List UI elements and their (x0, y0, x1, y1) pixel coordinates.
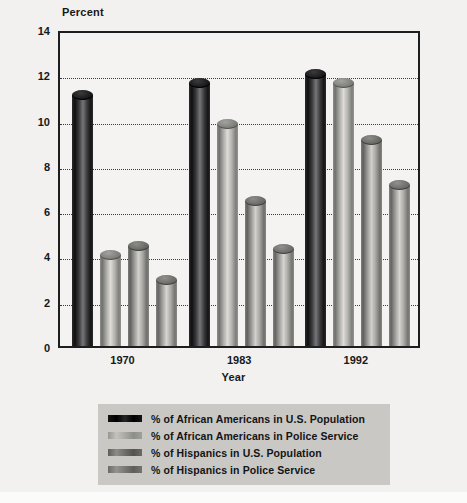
bar-body (72, 95, 93, 346)
x-tick-label: 1970 (110, 354, 134, 366)
legend-swatch (108, 449, 142, 456)
bar-body (333, 83, 354, 346)
bar (128, 241, 149, 346)
bar-body (156, 280, 177, 346)
bar-body (189, 83, 210, 346)
legend-label: % of African Americans in Police Service (151, 430, 358, 442)
bar (273, 244, 294, 346)
legend-swatch (108, 432, 142, 439)
legend-item: % of Hispanics in Police Service (98, 461, 390, 478)
bar-body (305, 74, 326, 346)
chart-figure: Percent 02468101214 197019831992 Year % … (0, 0, 467, 503)
bar (333, 78, 354, 346)
y-tick-label: 14 (8, 25, 50, 37)
y-tick-label: 2 (8, 297, 50, 309)
legend-swatch (108, 466, 142, 473)
bar-body (100, 255, 121, 346)
bar-body (128, 246, 149, 346)
x-axis-title: Year (0, 371, 467, 383)
x-tick-label: 1983 (227, 354, 251, 366)
gridline (60, 124, 418, 125)
plot-area (58, 31, 420, 348)
bar-cap (217, 119, 238, 129)
bar (189, 78, 210, 346)
legend-item: % of Hispanics in U.S. Population (98, 444, 390, 461)
y-tick-label: 12 (8, 70, 50, 82)
bar-cap (245, 196, 266, 206)
bar (217, 119, 238, 346)
x-tick-label: 1992 (344, 354, 368, 366)
legend-label: % of African Americans in U.S. Populatio… (151, 413, 365, 425)
y-tick-label: 4 (8, 251, 50, 263)
bar-body (361, 140, 382, 346)
gridline (60, 78, 418, 79)
y-tick-label: 0 (8, 342, 50, 354)
bar (361, 135, 382, 346)
bar-body (389, 185, 410, 346)
bar-body (245, 201, 266, 346)
legend-swatch (108, 415, 142, 422)
bar (305, 69, 326, 346)
y-tick-label: 10 (8, 116, 50, 128)
bar (156, 275, 177, 346)
legend-item: % of African Americans in Police Service (98, 427, 390, 444)
bar-body (273, 249, 294, 346)
chart-legend: % of African Americans in U.S. Populatio… (98, 404, 390, 485)
y-tick-label: 6 (8, 206, 50, 218)
bar-body (217, 124, 238, 346)
y-tick-label: 8 (8, 161, 50, 173)
bar (389, 180, 410, 346)
bar (245, 196, 266, 346)
bar-cap (273, 244, 294, 254)
y-axis-title: Percent (62, 6, 104, 18)
bar (100, 250, 121, 346)
legend-item: % of African Americans in U.S. Populatio… (98, 410, 390, 427)
bar (72, 90, 93, 346)
bar-cap (72, 90, 93, 100)
legend-label: % of Hispanics in U.S. Population (151, 447, 322, 459)
legend-label: % of Hispanics in Police Service (151, 464, 315, 476)
